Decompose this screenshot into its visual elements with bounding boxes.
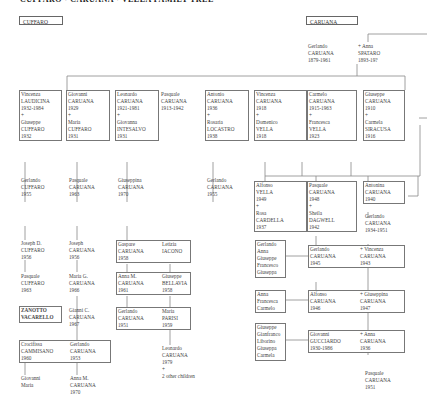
person-gerlando-caruana-1955: Gerlando CARUANA 1955 [207, 177, 233, 198]
person-leonardo-caruana: Leonardo CARUANA 1921-1981 + Giovanna IN… [117, 91, 146, 140]
person-carmelo-caruana: Carmelo CARUANA 1915-1963 + Francesca VE… [309, 91, 335, 140]
person-gerlando-cuffaro: Gerlando CUFFARO 1955 [21, 177, 45, 198]
person-vincenza-laudicina: Vincenza LAUDICINA 1932-1984 + Giuseppe … [21, 91, 50, 140]
person-giuseppina-caruana-1947: + Giuseppina CARUANA 1947 [360, 291, 388, 312]
person-vincenza-caruana-1943: + Vincenza CARUANA 1943 [360, 246, 386, 267]
person-gerlando-caruana-1945: Gerlando CARUANA 1945 [310, 246, 336, 267]
person-letizia-iacono: Letizia IACONO [162, 241, 182, 255]
person-gerlando-caruana-1934: Gerlando CARUANA 1934-1951 [365, 213, 391, 234]
person-alfonso-vella: Alfonso VELLA 1949 + Rosa CARDELLA 1937 [256, 182, 284, 231]
person-zanotto-vacarello: ZANOTTO VACARELLO [21, 307, 53, 321]
person-anna-caruana-1936: + Anna CARUANA 1936 [360, 331, 386, 352]
person-leonardo-caruana-1979: Leonardo CARUANA 1979 + 2 other children [162, 345, 195, 380]
person-giovanni-gucciardo: Giovanni GUCCIARDO 1930-1986 [310, 331, 341, 352]
person-joseph-d-cuffaro: Joseph D. CUFFARO 1956 [21, 240, 45, 261]
person-giuseppina-caruana: Giuseppina CARUANA 1970 [118, 177, 144, 198]
person-gerlando-caruana-1953: Gerlando CARUANA 1953 [70, 341, 96, 362]
person-pasquale-caruana-1951: Pasquale CARUANA 1951 [365, 370, 391, 391]
children-list-2: Anna Francesca Carmelo [257, 291, 278, 312]
person-pasquale-caruana-1948: Pasquale CARUANA 1948 + Sheila DAGWELL 1… [309, 182, 335, 231]
family-label-cuffaro: CUFFARO [19, 16, 63, 25]
person-gaspare-caruana: Gaspare CARUANA 1958 [118, 241, 144, 262]
person-antonina-caruana: Antonina CARUANA 1940 [365, 182, 391, 203]
person-anna-m-caruana-1961: Anna M. CARUANA 1961 [118, 273, 144, 294]
person-giuseppe-caruana: Giuseppe CARUANA 1910 + Carmela SIRACUSA… [365, 91, 391, 140]
person-gerlando-caruana-1951: Gerlando CARUANA 1951 [118, 308, 144, 329]
children-list-1: Gerlando Anna Giuseppe Francesco Giusepp… [257, 241, 278, 276]
person-pasquale-caruana: Pasquale CARUANA 1913-1942 [161, 91, 187, 112]
person-joseph-caruana: Joseph CARUANA 1956 [69, 240, 95, 261]
person-vincenza-caruana: Vincenza CARUANA 1918 + Domenico VELLA 1… [256, 91, 282, 140]
person-maria-g-caruana: Maria G. CARUANA 1966 [69, 273, 95, 294]
person-gianni-c-caruana: Gianni C. CARUANA 1967 [69, 307, 95, 328]
person-antonio-caruana: Antonio CARUANA 1936 + Rosaria LOCASTRO … [207, 91, 234, 140]
person-pasquale-caruana-1963: Pasquale CARUANA 1963 [69, 177, 95, 198]
person-giovanni-caruana: Giovanni CARUANA 1929 + Maria CUFFARO 19… [68, 91, 94, 140]
root-wife: + Anna SPATARO 1893-19? [358, 43, 380, 64]
person-crocifissa-cammisano: Crocifissa CAMMISANO 1960 [21, 341, 53, 362]
person-maria-parisi: Maria PARISI 1959 [162, 308, 178, 329]
root-husband: Gerlando CARUANA 1879-1961 [308, 43, 334, 64]
person-anna-m-caruana-1970: Anna M. CARUANA 1970 [70, 375, 96, 396]
person-pasquale-cuffaro: Pasquale CUFFARO 1963 [21, 273, 45, 294]
children-list-3: Giuseppe Gianfranco Liborino Giuseppa Ca… [257, 324, 280, 359]
person-giovanni-maria: Giovanni Maria [21, 375, 40, 389]
person-giuseppe-bellavia: Giuseppe BELLAVIA 1958 [162, 273, 187, 294]
family-label-caruana: CARUANA [306, 16, 358, 25]
person-alfonso-caruana-1946: Alfonso CARUANA 1946 [310, 291, 336, 312]
